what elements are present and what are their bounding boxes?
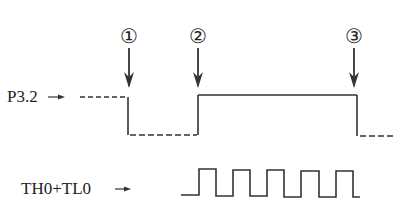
signal-label-p32: P3.2 (7, 88, 38, 105)
marker-label-3: ③ (345, 26, 363, 46)
th0tl0-pulse-train (181, 169, 360, 197)
signal-label-th0tl0: TH0+TL0 (21, 180, 91, 197)
marker-label-2: ② (189, 26, 207, 46)
marker-arrow-2 (193, 48, 203, 88)
marker-label-1: ① (120, 26, 138, 46)
th0tl0-label-arrow (115, 187, 131, 192)
marker-arrow-3 (349, 48, 359, 88)
p32-label-arrow (48, 95, 65, 100)
marker-arrow-1 (124, 48, 134, 88)
timing-diagram: ① ② ③ P3.2 TH0+TL0 (0, 0, 401, 219)
p32-waveform (80, 95, 394, 136)
